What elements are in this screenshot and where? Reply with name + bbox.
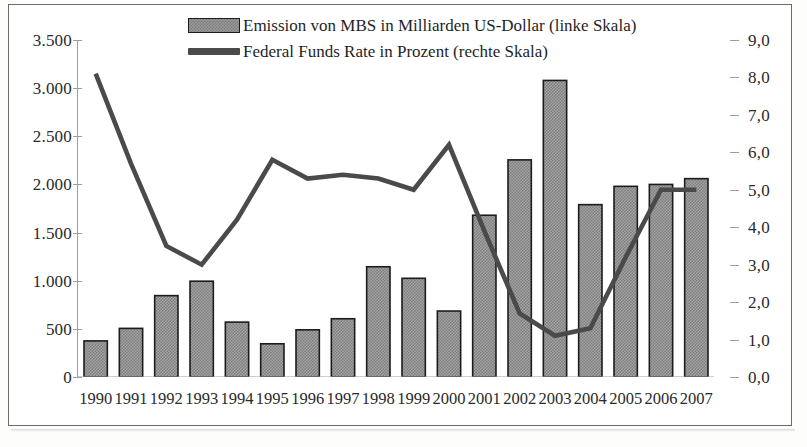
bar-1992 — [155, 296, 178, 377]
bar-1991 — [119, 328, 142, 377]
bar-1990 — [84, 341, 107, 377]
bar-2007 — [685, 179, 708, 377]
x-tick-label-1993: 1993 — [185, 391, 218, 408]
y-right-tick-label: 3,0 — [748, 256, 770, 273]
y-right-tick-label: 7,0 — [748, 106, 770, 123]
y-right-tick-label: 4,0 — [748, 219, 770, 236]
bar-2001 — [473, 215, 496, 377]
chart-figure: Emission von MBS in Milliarden US-Dollar… — [0, 0, 807, 447]
legend-entry-bars: Emission von MBS in Milliarden US-Dollar… — [188, 12, 668, 38]
x-tick-label-1994: 1994 — [221, 391, 254, 408]
x-tick-label-1991: 1991 — [115, 391, 148, 408]
bar-1993 — [190, 281, 213, 377]
y-left-tick-label: 2.500 — [33, 128, 72, 145]
x-tick-label-1990: 1990 — [79, 391, 112, 408]
x-tick-label-2007: 2007 — [680, 391, 713, 408]
y-left-tick-label: 500 — [46, 320, 72, 337]
bar-1998 — [367, 267, 390, 377]
y-right-tick-label: 2,0 — [748, 294, 770, 311]
x-axis: 1990199119921993199419951996199719981999… — [78, 388, 714, 414]
y-left-tick-label: 1.500 — [33, 224, 72, 241]
y-right-tick — [730, 227, 739, 228]
y-right-tick — [730, 265, 739, 266]
y-right-tick — [730, 377, 739, 378]
bar-1995 — [261, 344, 284, 377]
legend-label-bars: Emission von MBS in Milliarden US-Dollar… — [243, 17, 636, 34]
x-tick-label-1998: 1998 — [362, 391, 395, 408]
bar-1994 — [225, 322, 248, 377]
line-series — [96, 74, 697, 336]
x-tick-label-2001: 2001 — [468, 391, 501, 408]
y-right-tick — [730, 115, 739, 116]
y-left-tick-label: 0 — [63, 369, 72, 386]
plot-svg — [78, 40, 714, 377]
y-right-tick — [730, 302, 739, 303]
x-tick-label-2003: 2003 — [539, 391, 572, 408]
y-axis-right: 0,01,02,03,04,05,06,07,08,09,0 — [726, 40, 786, 377]
bar-2005 — [614, 186, 637, 377]
bar-1997 — [331, 319, 354, 377]
y-right-tick-label: 0,0 — [748, 369, 770, 386]
bar-1999 — [402, 278, 425, 377]
y-right-tick — [730, 77, 739, 78]
x-tick-label-2002: 2002 — [503, 391, 536, 408]
x-tick-label-2006: 2006 — [645, 391, 678, 408]
bar-swatch-icon — [188, 18, 240, 33]
x-tick-label-1997: 1997 — [327, 391, 360, 408]
y-left-tick-label: 3.000 — [33, 80, 72, 97]
y-right-tick-label: 8,0 — [748, 69, 770, 86]
y-right-tick — [730, 190, 739, 191]
y-left-tick-label: 1.000 — [33, 272, 72, 289]
x-tick-label-2000: 2000 — [433, 391, 466, 408]
y-axis-left: 05001.0001.5002.0002.5003.0003.500 — [10, 40, 72, 377]
y-right-tick-label: 5,0 — [748, 181, 770, 198]
y-right-tick — [730, 152, 739, 153]
x-tick-label-1992: 1992 — [150, 391, 183, 408]
y-right-tick-label: 6,0 — [748, 144, 770, 161]
bar-series — [84, 80, 708, 377]
plot-area — [78, 40, 714, 377]
x-tick-label-1995: 1995 — [256, 391, 289, 408]
y-left-tick-label: 3.500 — [33, 32, 72, 49]
bar-2002 — [508, 160, 531, 377]
bar-2000 — [437, 311, 460, 377]
x-tick-label-2005: 2005 — [609, 391, 642, 408]
y-right-tick-label: 9,0 — [748, 32, 770, 49]
frame-shadow — [11, 429, 795, 432]
x-tick-label-1996: 1996 — [291, 391, 324, 408]
x-tick-label-1999: 1999 — [397, 391, 430, 408]
bar-2006 — [649, 184, 672, 377]
y-right-tick-label: 1,0 — [748, 331, 770, 348]
y-right-tick — [730, 340, 739, 341]
x-tick-label-2004: 2004 — [574, 391, 607, 408]
y-left-tick — [73, 377, 82, 378]
bar-2004 — [579, 205, 602, 377]
y-left-tick-label: 2.000 — [33, 176, 72, 193]
y-right-tick — [730, 40, 739, 41]
bar-1996 — [296, 330, 319, 377]
